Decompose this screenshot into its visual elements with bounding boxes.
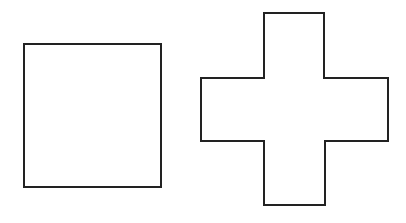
diagram-canvas [0,0,406,223]
square-shape [24,44,161,187]
cross-shape [201,13,388,205]
